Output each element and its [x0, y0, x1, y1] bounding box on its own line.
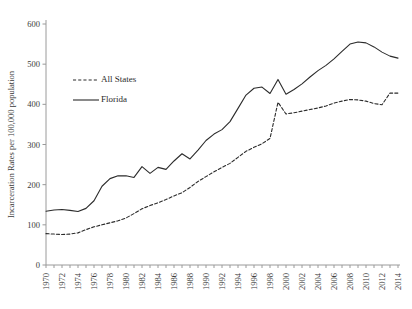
- y-axis: 0100200300400500600: [27, 19, 46, 270]
- y-tick-label: 500: [27, 59, 40, 69]
- x-tick-label: 1998: [265, 273, 275, 290]
- x-tick-label: 1978: [105, 273, 115, 290]
- y-axis-title: Incarceration Rates per 100,000 populati…: [6, 70, 16, 218]
- chart-legend: All StatesFlorida: [73, 74, 137, 104]
- incarceration-rates-line-chart: 0100200300400500600 19701972197419761978…: [0, 0, 412, 309]
- x-tick-label: 1992: [217, 273, 227, 290]
- y-tick-label: 0: [36, 260, 40, 270]
- series-lines: [46, 42, 398, 234]
- x-tick-label: 2008: [345, 273, 355, 290]
- x-tick-label: 2006: [329, 273, 339, 290]
- legend-label-florida: Florida: [101, 94, 127, 104]
- x-tick-label: 1974: [73, 272, 83, 290]
- x-tick-label: 1976: [89, 273, 99, 290]
- y-tick-label: 300: [27, 140, 40, 150]
- x-axis: 1970197219741976197819801982198419861988…: [41, 265, 403, 290]
- x-tick-label: 2004: [313, 272, 323, 290]
- x-tick-label: 2002: [297, 273, 307, 290]
- x-tick-label: 2000: [281, 273, 291, 290]
- x-tick-label: 1994: [233, 272, 243, 290]
- x-tick-label: 1988: [185, 273, 195, 290]
- x-tick-label: 2014: [393, 272, 403, 290]
- y-tick-label: 600: [27, 19, 40, 29]
- x-tick-label: 1982: [137, 273, 147, 290]
- x-tick-label: 1980: [121, 273, 131, 290]
- x-tick-label: 1996: [249, 273, 259, 290]
- chart-canvas: 0100200300400500600 19701972197419761978…: [0, 0, 412, 309]
- x-tick-label: 1972: [57, 273, 67, 290]
- series-line-florida: [46, 42, 398, 212]
- x-tick-label: 1984: [153, 272, 163, 290]
- x-tick-label: 2012: [377, 273, 387, 290]
- y-tick-label: 200: [27, 180, 40, 190]
- y-tick-label: 100: [27, 220, 40, 230]
- x-tick-label: 2010: [361, 273, 371, 290]
- legend-label-all-states: All States: [101, 74, 137, 84]
- series-line-all-states: [46, 93, 398, 234]
- x-tick-label: 1986: [169, 273, 179, 290]
- x-tick-label: 1990: [201, 273, 211, 290]
- x-tick-label: 1970: [41, 273, 51, 290]
- y-tick-label: 400: [27, 99, 40, 109]
